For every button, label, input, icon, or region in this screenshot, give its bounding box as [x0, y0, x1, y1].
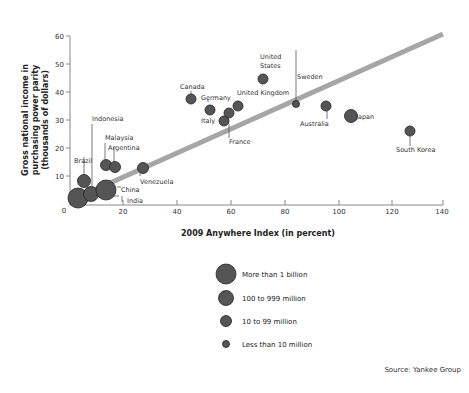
svg-text:Argentina: Argentina [108, 144, 140, 152]
svg-text:Italy: Italy [201, 117, 215, 125]
x-axis-title: 2009 Anywhere Index (in percent) [181, 229, 335, 238]
bubble-venezuela [138, 163, 149, 174]
svg-text:80: 80 [281, 208, 290, 216]
svg-text:France: France [229, 138, 251, 146]
bubble-france [224, 108, 234, 118]
svg-text:Brazil: Brazil [74, 157, 92, 165]
svg-text:Less than 10 million: Less than 10 million [242, 341, 312, 349]
svg-text:China: China [121, 186, 140, 194]
svg-text:United: United [260, 53, 281, 61]
bubble-united-states [258, 74, 268, 84]
svg-text:100: 100 [332, 208, 345, 216]
bubble-australia [321, 101, 331, 111]
svg-text:60: 60 [55, 33, 64, 41]
svg-text:140: 140 [435, 208, 448, 216]
svg-text:20: 20 [119, 208, 128, 216]
legend-bubble-xl [216, 264, 236, 284]
svg-text:Canada: Canada [180, 83, 205, 91]
trend-line [72, 34, 443, 200]
bubble-sweden [293, 101, 300, 108]
legend-bubble-lg [219, 291, 234, 306]
bubble-argentina [110, 162, 121, 173]
bubble-chart: Gross national income in purchasing powe… [0, 0, 469, 393]
svg-text:(thousands of dollars): (thousands of dollars) [41, 70, 50, 170]
svg-text:Venezuela: Venezuela [140, 178, 173, 186]
svg-text:30: 30 [55, 117, 64, 125]
source-note: Source: Yankee Group [384, 366, 461, 374]
svg-text:Australia: Australia [300, 120, 329, 128]
svg-text:More than 1 billion: More than 1 billion [242, 271, 307, 279]
bubble-united-kingdom [233, 101, 243, 111]
svg-text:40: 40 [55, 89, 64, 97]
svg-text:India: India [127, 197, 143, 205]
svg-text:Indonesia: Indonesia [92, 115, 123, 123]
svg-text:United Kingdom: United Kingdom [237, 89, 289, 97]
svg-text:50: 50 [55, 61, 64, 69]
bubble-canada [186, 94, 196, 104]
legend: More than 1 billion 100 to 999 million 1… [216, 264, 312, 349]
svg-text:Malaysia: Malaysia [105, 134, 133, 142]
svg-text:Japan: Japan [355, 113, 374, 121]
svg-text:Germany: Germany [201, 94, 231, 102]
svg-text:20: 20 [55, 145, 64, 153]
svg-text:States: States [260, 62, 281, 70]
y-axis-title: Gross national income in purchasing powe… [21, 64, 50, 176]
bubble-germany [205, 105, 215, 115]
svg-text:Sweden: Sweden [297, 73, 323, 81]
svg-text:Gross national income in: Gross national income in [21, 64, 30, 176]
svg-text:0: 0 [62, 207, 66, 215]
svg-text:40: 40 [173, 208, 182, 216]
svg-text:120: 120 [385, 208, 398, 216]
x-axis: 20 40 60 80 100 120 140 2009 Anywhere In… [70, 200, 449, 238]
svg-text:60: 60 [227, 208, 236, 216]
legend-bubble-md [221, 316, 232, 327]
svg-text:South Korea: South Korea [396, 146, 435, 154]
svg-text:10: 10 [55, 173, 64, 181]
svg-text:purchasing power parity: purchasing power parity [31, 64, 40, 175]
bubble-south-korea [405, 126, 415, 136]
country-labels: Indonesia Brazil Malaysia Argentina Vene… [74, 53, 435, 205]
svg-text:100 to 999 million: 100 to 999 million [242, 295, 306, 303]
legend-bubble-sm [223, 341, 230, 348]
y-axis: 60 50 40 30 20 10 0 [55, 33, 70, 216]
bubble-brazil [78, 175, 91, 188]
bubble-china [96, 180, 116, 200]
svg-text:10 to 99 million: 10 to 99 million [242, 318, 297, 326]
